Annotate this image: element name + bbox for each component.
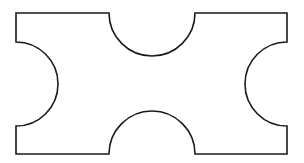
notched-rectangle-outline: [16, 13, 287, 154]
notched-rectangle-diagram: [0, 0, 304, 163]
